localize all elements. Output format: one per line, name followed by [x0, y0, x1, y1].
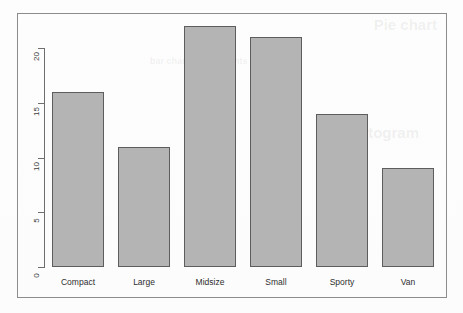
bar — [52, 92, 104, 267]
y-axis-line — [44, 48, 45, 268]
y-axis-tick-label-wrap: 10 — [14, 152, 36, 164]
x-axis-category-label: Compact — [52, 277, 104, 287]
y-axis-tick-label: 5 — [32, 211, 41, 231]
bar — [118, 147, 170, 267]
x-axis-category-label: Van — [382, 277, 434, 287]
y-axis-tick-label: 0 — [32, 266, 41, 286]
y-axis-tick-label-wrap: 20 — [14, 42, 36, 54]
y-axis-tick-label: 15 — [32, 101, 41, 121]
y-axis-tick-label-wrap: 15 — [14, 97, 36, 109]
x-axis-category-label: Midsize — [184, 277, 236, 287]
bar — [316, 114, 368, 267]
plot-region: 05101520 CompactLargeMidsizeSmallSportyV… — [0, 0, 463, 313]
y-axis-tick-label: 20 — [32, 47, 41, 67]
bar — [250, 37, 302, 267]
y-axis-tick-label-wrap: 0 — [14, 261, 36, 273]
y-axis-tick-label-wrap: 5 — [14, 206, 36, 218]
bar — [184, 26, 236, 267]
x-axis-category-label: Small — [250, 277, 302, 287]
y-axis-tick-label: 10 — [32, 156, 41, 176]
bar — [382, 168, 434, 267]
chart-screenshot: Pie chart Histogram bar chart of the cou… — [0, 0, 463, 313]
x-axis-category-label: Sporty — [316, 277, 368, 287]
x-axis-category-label: Large — [118, 277, 170, 287]
